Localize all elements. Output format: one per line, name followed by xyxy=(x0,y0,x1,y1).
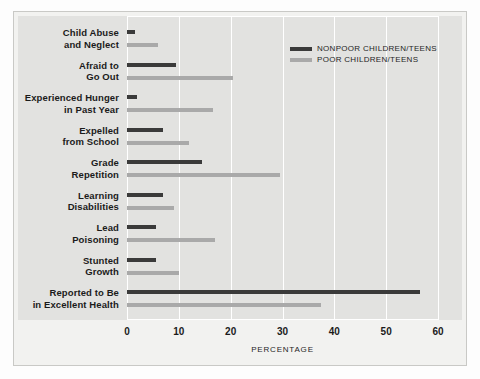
bar-row: Afraid toGo Out xyxy=(127,61,438,95)
x-tick-label: 10 xyxy=(159,326,199,337)
category-label-line: Expelled xyxy=(0,125,119,137)
bar-poor xyxy=(127,108,213,112)
x-tick-label: 60 xyxy=(418,326,458,337)
category-label: LeadPoisoning xyxy=(0,222,119,245)
bar-poor xyxy=(127,43,158,47)
category-label-line: from School xyxy=(0,136,119,148)
legend-swatch-nonpoor-icon xyxy=(290,47,312,51)
legend-label-nonpoor: NONPOOR CHILDREN/TEENS xyxy=(317,44,437,53)
category-label-line: Lead xyxy=(0,222,119,234)
bar-poor xyxy=(127,238,215,242)
bar-poor xyxy=(127,303,321,307)
category-label-line: in Past Year xyxy=(0,104,119,116)
x-axis-label: PERCENTAGE xyxy=(127,345,438,354)
bar-poor xyxy=(127,271,179,275)
category-label: Child Abuseand Neglect xyxy=(0,27,119,50)
bar-row: Reported to Bein Excellent Health xyxy=(127,288,438,322)
bar-nonpoor xyxy=(127,95,137,99)
legend-label-poor: POOR CHILDREN/TEENS xyxy=(317,55,418,64)
x-tick-label: 50 xyxy=(366,326,406,337)
category-label-line: Learning xyxy=(0,190,119,202)
bar-nonpoor xyxy=(127,290,420,294)
x-tick-label: 20 xyxy=(211,326,251,337)
bar-nonpoor xyxy=(127,30,135,34)
bar-poor xyxy=(127,76,233,80)
category-label-line: Grade xyxy=(0,157,119,169)
category-label-line: Afraid to xyxy=(0,60,119,72)
bar-row: LeadPoisoning xyxy=(127,223,438,257)
bar-nonpoor xyxy=(127,160,202,164)
category-label: Afraid toGo Out xyxy=(0,60,119,83)
bar-nonpoor xyxy=(127,225,156,229)
category-label-line: Growth xyxy=(0,266,119,278)
bar-poor xyxy=(127,173,280,177)
category-label-line: Reported to Be xyxy=(0,287,119,299)
bar-nonpoor xyxy=(127,193,163,197)
bar-nonpoor xyxy=(127,63,176,67)
category-label-line: Child Abuse xyxy=(0,27,119,39)
x-tick-label: 30 xyxy=(263,326,303,337)
category-label: Expelledfrom School xyxy=(0,125,119,148)
category-label-line: Poisoning xyxy=(0,234,119,246)
category-label-line: and Neglect xyxy=(0,39,119,51)
category-label: GradeRepetition xyxy=(0,157,119,180)
bar-nonpoor xyxy=(127,258,156,262)
bar-row: Expelledfrom School xyxy=(127,126,438,160)
category-label: Reported to Bein Excellent Health xyxy=(0,287,119,310)
legend-item-nonpoor: NONPOOR CHILDREN/TEENS xyxy=(290,43,437,54)
legend-item-poor: POOR CHILDREN/TEENS xyxy=(290,54,437,65)
category-label: StuntedGrowth xyxy=(0,255,119,278)
category-label: Experienced Hungerin Past Year xyxy=(0,92,119,115)
bar-poor xyxy=(127,206,174,210)
bar-row: StuntedGrowth xyxy=(127,256,438,290)
category-label-line: Go Out xyxy=(0,71,119,83)
bar-nonpoor xyxy=(127,128,163,132)
bar-row: Experienced Hungerin Past Year xyxy=(127,93,438,127)
category-label-line: Stunted xyxy=(0,255,119,267)
category-label: LearningDisabilities xyxy=(0,190,119,213)
x-tick-label: 0 xyxy=(107,326,147,337)
chart-legend: NONPOOR CHILDREN/TEENS POOR CHILDREN/TEE… xyxy=(290,43,437,65)
gridline-60 xyxy=(438,16,439,320)
bar-row: LearningDisabilities xyxy=(127,191,438,225)
legend-swatch-poor-icon xyxy=(290,58,312,62)
bar-poor xyxy=(127,141,189,145)
chart-figure: Child Abuseand NeglectAfraid toGo OutExp… xyxy=(0,0,480,379)
x-tick-label: 40 xyxy=(314,326,354,337)
bar-row: GradeRepetition xyxy=(127,158,438,192)
category-label-line: Repetition xyxy=(0,169,119,181)
category-label-line: in Excellent Health xyxy=(0,299,119,311)
category-label-line: Disabilities xyxy=(0,201,119,213)
category-label-line: Experienced Hunger xyxy=(0,92,119,104)
